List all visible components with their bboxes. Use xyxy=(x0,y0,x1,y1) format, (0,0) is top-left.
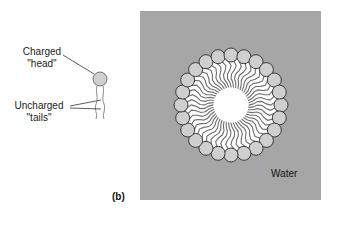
head-icon xyxy=(224,148,238,162)
uncharged-tails-label: Uncharged "tails" xyxy=(8,100,70,124)
uncharged-line-1: Uncharged xyxy=(8,100,70,112)
head-icon xyxy=(237,146,251,160)
head-icon xyxy=(174,98,188,112)
tail-2 xyxy=(103,86,105,119)
head-icon xyxy=(224,48,238,62)
micelle xyxy=(174,48,288,162)
head-icon xyxy=(211,50,225,64)
single-molecule xyxy=(93,72,107,119)
head-icon xyxy=(272,85,286,99)
uncharged-line-2: "tails" xyxy=(8,112,70,124)
tail-1 xyxy=(95,86,97,119)
charged-head-icon xyxy=(93,72,107,86)
head-icon xyxy=(176,111,190,125)
charged-head-label: Charged "head" xyxy=(14,46,70,70)
charged-line-2: "head" xyxy=(14,58,70,70)
water-label: Water xyxy=(271,168,297,179)
micelle-center xyxy=(214,88,248,122)
charged-line-1: Charged xyxy=(14,46,70,58)
tail-leader-line-2 xyxy=(70,108,101,109)
head-icon xyxy=(274,98,288,112)
panel-label: (b) xyxy=(112,191,125,202)
